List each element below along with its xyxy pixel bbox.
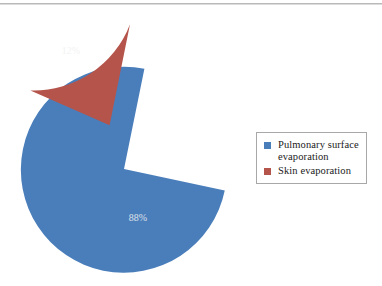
- pie-chart-figure: 88% 12% Pulmonary surface evaporation Sk…: [0, 0, 382, 286]
- legend-swatch-icon-blue: [264, 142, 271, 149]
- legend-swatch-icon-red: [264, 168, 271, 175]
- pie-slice-label-88: 88%: [129, 212, 147, 223]
- legend-item-label: Skin evaporation: [278, 165, 351, 177]
- legend-item-skin-evaporation[interactable]: Skin evaporation: [264, 165, 351, 177]
- chart-legend: Pulmonary surface evaporation Skin evapo…: [256, 132, 367, 184]
- legend-item-label: Pulmonary surface evaporation: [278, 139, 359, 163]
- legend-item-pulmonary-surface-evaporation[interactable]: Pulmonary surface evaporation: [264, 139, 359, 163]
- pie-slice-label-12: 12%: [62, 45, 80, 56]
